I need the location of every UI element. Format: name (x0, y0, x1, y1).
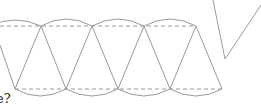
top-arc-4 (144, 19, 196, 26)
top-arc-2 (41, 19, 92, 26)
bottom-arc-3 (118, 89, 170, 96)
side-v-shape (213, 0, 261, 59)
bottom-arc-1 (15, 89, 66, 96)
net-diagram (0, 0, 261, 107)
zigzag-edges (0, 26, 222, 89)
caption-fragment: e? (0, 92, 11, 105)
bottom-arc-4 (170, 89, 222, 96)
top-arc-1 (0, 20, 41, 26)
top-arc-3 (92, 19, 144, 26)
bottom-arc-2 (66, 89, 118, 96)
